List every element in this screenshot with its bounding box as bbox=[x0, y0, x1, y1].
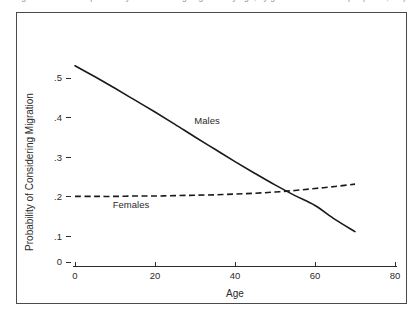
x-axis-title: Age bbox=[226, 288, 244, 299]
y-tick-label: .5 bbox=[54, 72, 62, 83]
figure-caption-strip: Figure 1. Predicted probability of consi… bbox=[0, 0, 420, 9]
y-tick-label: .2 bbox=[54, 191, 62, 202]
series-curve-females bbox=[75, 184, 355, 196]
x-tick-label: 20 bbox=[150, 270, 161, 281]
y-tick-label: .4 bbox=[54, 112, 62, 123]
y-tick-label: .3 bbox=[54, 152, 62, 163]
y-tick-label: 0 bbox=[57, 256, 62, 267]
figure-frame: 0.1.2.3.4.5Probability of Considering Mi… bbox=[16, 12, 407, 304]
series-label-females: Females bbox=[113, 199, 150, 210]
x-tick-label: 60 bbox=[310, 270, 321, 281]
y-axis: 0.1.2.3.4.5 bbox=[54, 72, 71, 267]
x-tick-label: 40 bbox=[230, 270, 241, 281]
figure-caption-text: Figure 1. Predicted probability of consi… bbox=[14, 0, 408, 2]
x-axis: 020406080 bbox=[72, 262, 400, 282]
y-axis-title: Probability of Considering Migration bbox=[24, 93, 35, 251]
x-tick-label: 0 bbox=[72, 270, 77, 281]
y-tick-label: .1 bbox=[54, 231, 62, 242]
x-tick-label: 80 bbox=[390, 270, 401, 281]
series-label-males: Males bbox=[194, 115, 220, 126]
migration-probability-line-chart: 0.1.2.3.4.5Probability of Considering Mi… bbox=[17, 13, 406, 303]
